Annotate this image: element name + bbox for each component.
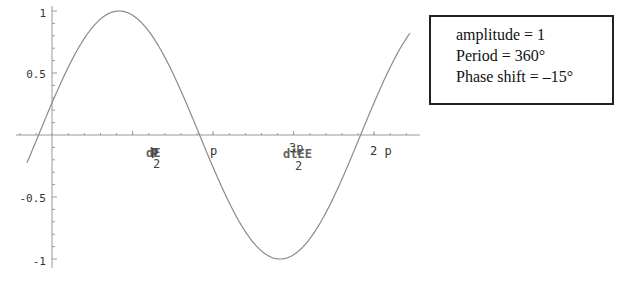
- y-tick-label-neg-0.5: -0.5: [20, 192, 47, 205]
- x-tick-label-2pi: 2 p: [370, 144, 392, 158]
- three-half-pi-denominator: 2: [295, 159, 302, 173]
- y-tick-label-0.5: 0.5: [26, 68, 46, 81]
- phase-shift-label: Phase shift = –15°: [456, 66, 612, 87]
- y-tick-label-1: 1: [39, 7, 46, 20]
- period-label: Period = 360°: [456, 45, 612, 66]
- x-tick-label-3-half-pi: 3p dtEE 2: [283, 141, 312, 173]
- x-tick-label-pi: p: [210, 144, 217, 158]
- amplitude-label: amplitude = 1: [456, 24, 612, 45]
- y-tick-label-neg-1: -1: [33, 255, 46, 268]
- half-pi-denominator: 2: [153, 157, 160, 171]
- parameters-box: amplitude = 1 Period = 360° Phase shift …: [429, 15, 614, 105]
- x-tick-label-half-pi: p dE 2: [146, 144, 160, 171]
- x-axis-ticks: [20, 131, 406, 135]
